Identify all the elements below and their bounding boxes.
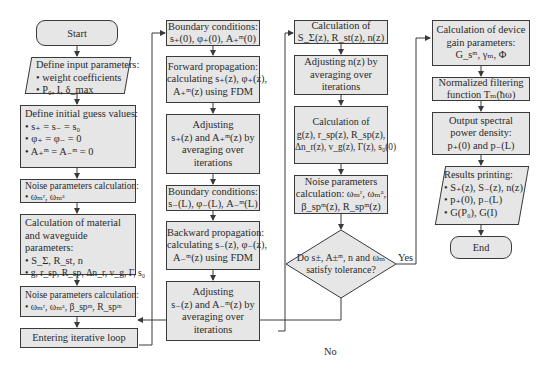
adjust-backward-text: Adjusting — [167, 286, 259, 299]
adjust-backward-text: iterations — [167, 324, 259, 337]
adjust-backward-box: Adjusting s₋(z) and A₋ᵐ(z) by averaging … — [166, 281, 260, 341]
noise-params-title: Noise parameters calculation: — [25, 181, 131, 192]
noise-params-box-1: Noise parameters calculation: • ωₘʳ, ωₘᵃ — [20, 179, 136, 203]
boundary-forward-box: Boundary conditions: s₊(0), φ₊(0), A₊ᵐ(0… — [166, 20, 260, 46]
forward-propagation-title: Forward propagation: — [167, 61, 259, 74]
initial-guess-box: Define initial guess values: • s₊ = s₋ =… — [20, 105, 136, 168]
backward-propagation-box: Backward propagation: calculating s₋(z),… — [166, 221, 260, 270]
initial-guess-item: • A₊ᵐ = A₋ᵐ = 0 — [25, 146, 131, 159]
material-params-item: • S_Σ, R_st, n — [25, 255, 131, 268]
boundary-backward-box: Boundary conditions: s₋(L), φ₋(L), A₋ᵐ(L… — [166, 185, 260, 211]
boundary-backward-title: Boundary conditions: — [167, 186, 259, 199]
results-printing-box: Results printing: • S₊(z), S₋(z), n(z) •… — [440, 166, 524, 225]
adjust-n-text: averaging over — [295, 69, 387, 82]
boundary-backward-values: s₋(L), φ₋(L), A₋ᵐ(L) — [167, 198, 259, 211]
adjust-n-text: iterations — [295, 81, 387, 94]
noise-params-item: • ωₘʳ, ωₘᵃ — [25, 192, 131, 203]
material-params-title: Calculation of material and waveguide pa… — [25, 217, 131, 255]
input-parameters-box: Define input parameters: • weight coeffi… — [28, 57, 128, 94]
gain-params-title: Calculation of device — [433, 24, 529, 37]
adjust-forward-text: iterations — [167, 157, 259, 170]
input-item-weights: • weight coefficients — [36, 72, 120, 85]
material-params-box: Calculation of material and waveguide pa… — [20, 214, 136, 275]
flowchart: Start Define input parameters: • weight … — [0, 0, 544, 378]
spectral-density-box: Output spectral power density: p₊(0) and… — [432, 112, 530, 155]
forward-propagation-text: calculating s₊(z), φ₊(z), — [167, 73, 259, 86]
adjust-n-text: Adjusting n(z) by — [295, 56, 387, 69]
calc-s-values: S_Σ(z), R_st(z), n(z) — [295, 32, 387, 45]
start-terminal: Start — [36, 20, 118, 46]
results-printing-title: Results printing: — [444, 169, 520, 182]
tolerance-question-line: satisfy tolerance? — [291, 264, 391, 276]
spectral-density-values: p₊(0) and p₋(L) — [433, 140, 529, 153]
spectral-density-title: Output spectral — [433, 115, 529, 128]
adjust-backward-text: averaging over — [167, 311, 259, 324]
spectral-density-text: power density: — [433, 127, 529, 140]
backward-propagation-title: Backward propagation: — [167, 227, 259, 240]
adjust-forward-text: s₊(z) and A₊ᵐ(z) by — [167, 132, 259, 145]
noise-params-title: Noise parameters calculation: — [25, 289, 131, 301]
end-label: End — [473, 242, 490, 253]
iterative-loop-box: Entering iterative loop — [20, 328, 138, 348]
filtering-function-box: Normalized filtering function Tₘ(ħω) — [432, 77, 530, 101]
start-label: Start — [67, 28, 87, 39]
no-label: No — [324, 346, 337, 357]
iterative-loop-label: Entering iterative loop — [21, 332, 137, 345]
gain-params-values: G_sᵐ, γₘ, Φ — [433, 49, 529, 62]
filtering-function-text: function Tₘ(ħω) — [433, 89, 529, 102]
material-params-item: • g, r_sp, R_sp, Δn_r, v_g, Γ, s₀ — [25, 267, 131, 280]
filtering-function-title: Normalized filtering — [433, 77, 529, 90]
initial-guess-title: Define initial guess values: — [25, 108, 131, 121]
calc-g-values: Δn_r(z), v_g(z), Γ(z), s₀(0) — [295, 141, 387, 154]
adjust-forward-text: Adjusting — [167, 119, 259, 132]
initial-guess-item: • φ₊ = φ₋ = 0 — [25, 133, 131, 146]
noise-params-item: • ωₘʳ, ωₘᵃ, β_spᵐ, R_spᵐ — [25, 301, 131, 313]
adjust-n-box: Adjusting n(z) by averaging over iterati… — [294, 55, 388, 95]
adjust-forward-text: averaging over — [167, 144, 259, 157]
adjust-forward-box: Adjusting s₊(z) and A₊ᵐ(z) by averaging … — [166, 114, 260, 174]
calc-s-title: Calculation of — [295, 20, 387, 33]
boundary-forward-title: Boundary conditions: — [167, 21, 259, 34]
initial-guess-item: • s₊ = s₋ = s₀ — [25, 121, 131, 134]
noise-params-box-2: Noise parameters calculation: • ωₘʳ, ωₘᵃ… — [20, 286, 136, 317]
adjust-backward-text: s₋(z) and A₋ᵐ(z) by — [167, 299, 259, 312]
boundary-forward-values: s₊(0), φ₊(0), A₊ᵐ(0) — [167, 33, 259, 46]
input-item-params: • P₀, I, δ_max — [36, 84, 120, 97]
calc-g-values: g(z), r_sp(z), R_sp(z), — [295, 129, 387, 142]
calc-g-title: Calculation of — [295, 116, 387, 129]
gain-params-box: Calculation of device gain parameters: G… — [432, 20, 530, 66]
forward-propagation-box: Forward propagation: calculating s₊(z), … — [166, 56, 260, 103]
results-item: • p₊(0), p₋(L) — [444, 194, 520, 207]
yes-label: Yes — [398, 252, 413, 263]
noise-params-text: calculation: ωₘʳ, ωₘᵃ, — [295, 188, 387, 201]
calc-g-box: Calculation of g(z), r_sp(z), R_sp(z), Δ… — [294, 106, 388, 164]
tolerance-question-line: Do s±, A±ᵐ, n and ωₘ — [291, 252, 391, 264]
end-terminal: End — [450, 236, 512, 259]
backward-propagation-text: calculating s₋(z), φ₋(z), — [167, 239, 259, 252]
input-parameters-title: Define input parameters: — [36, 59, 120, 72]
noise-params-box-3: Noise parameters calculation: ωₘʳ, ωₘᵃ, … — [294, 175, 388, 214]
noise-params-text: β_spᵐ(z), R_spᵐ(z) — [295, 201, 387, 214]
calc-s-box: Calculation of S_Σ(z), R_st(z), n(z) — [294, 20, 388, 44]
results-item: • G(P₀), G(I) — [444, 207, 520, 220]
results-item: • S₊(z), S₋(z), n(z) — [444, 182, 520, 195]
noise-params-title: Noise parameters — [295, 176, 387, 189]
backward-propagation-text: A₋ᵐ(z) using FDM — [167, 252, 259, 265]
forward-propagation-text: A₊ᵐ(z) using FDM — [167, 86, 259, 99]
tolerance-question: Do s±, A±ᵐ, n and ωₘ satisfy tolerance? — [291, 252, 391, 276]
gain-params-text: gain parameters: — [433, 37, 529, 50]
